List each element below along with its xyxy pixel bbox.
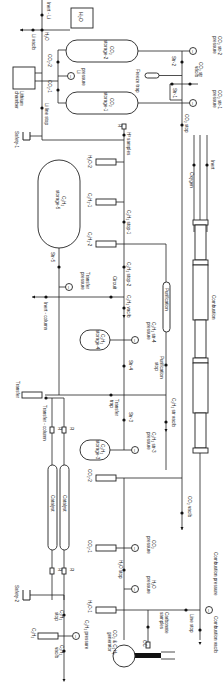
arrow-down-icon bbox=[123, 315, 126, 318]
svg-text:R: R bbox=[57, 568, 62, 572]
label-c2h2-2: C₂H₂-2 bbox=[87, 232, 92, 247]
svg-text:pressure: pressure bbox=[81, 68, 86, 86]
label-inert: Inert bbox=[210, 160, 215, 170]
svg-text:vac/b: vac/b bbox=[54, 647, 59, 658]
safety-2-valve bbox=[23, 590, 30, 600]
label-li-vac: Li vac/b bbox=[31, 34, 36, 50]
str-1-valve[interactable] bbox=[170, 82, 173, 85]
label-str-3: Str-3 bbox=[128, 412, 133, 422]
label-co2-storage-2: storage-2 bbox=[103, 40, 108, 60]
label-h-samples: H³ samples bbox=[126, 132, 131, 156]
svg-text:pressure: pressure bbox=[212, 36, 217, 54]
circuit-valve[interactable] bbox=[109, 295, 112, 298]
c2h2-str-vac-valve[interactable] bbox=[164, 420, 167, 423]
inert-column-valve[interactable] bbox=[44, 295, 47, 298]
freeze-trap bbox=[145, 73, 159, 78]
label-h2o-stop: H₂O stop bbox=[118, 560, 123, 579]
label-li-line-stop: Li line stop bbox=[44, 103, 49, 125]
arrow-left-icon bbox=[32, 296, 35, 299]
lithium-chamber bbox=[13, 67, 35, 89]
co2-str-1-pressure-gauge-icon bbox=[190, 100, 197, 107]
svg-text:R: R bbox=[69, 568, 74, 572]
co2-1-valve[interactable] bbox=[56, 88, 59, 91]
svg-text:R: R bbox=[57, 427, 62, 431]
svg-text:I: I bbox=[192, 50, 193, 54]
co2-str-vac-valve[interactable] bbox=[188, 82, 191, 85]
combustion-vac-valve[interactable] bbox=[198, 628, 201, 631]
co2-storage-2-tank bbox=[66, 40, 138, 62]
line-stop-valve[interactable] bbox=[184, 608, 187, 611]
li-vac-valve[interactable] bbox=[31, 28, 34, 31]
combustion-pressure-gauge-icon bbox=[206, 607, 213, 614]
h2o-2-trap bbox=[96, 159, 116, 165]
label-h2o-2: H₂O-2 bbox=[87, 155, 92, 168]
label-h2o-1: H₂O-1 bbox=[87, 600, 92, 613]
co2-2-valve[interactable] bbox=[56, 60, 59, 63]
co2-stop-valve[interactable] bbox=[180, 123, 183, 126]
label-combustion-pressure: Combustion pressure bbox=[213, 552, 218, 596]
label-oxygen: Oxygen bbox=[189, 172, 194, 188]
label-str-4: Str-4 bbox=[128, 360, 133, 370]
svg-text:I: I bbox=[134, 588, 135, 592]
oxygen-valve[interactable] bbox=[192, 163, 195, 166]
generator-stem bbox=[131, 653, 161, 658]
c2h2-stop-2-valve[interactable] bbox=[122, 265, 125, 268]
str-4-valve[interactable] bbox=[122, 364, 125, 367]
svg-text:R: R bbox=[117, 124, 122, 128]
label-combustion: Combustion bbox=[211, 295, 216, 320]
str-5-valve[interactable] bbox=[57, 265, 60, 268]
svg-text:C₂H₂: C₂H₂ bbox=[61, 196, 66, 206]
h2o-valve[interactable] bbox=[40, 28, 43, 31]
li-line-stop-valve[interactable] bbox=[40, 106, 43, 109]
svg-text:chamber: chamber bbox=[14, 91, 19, 109]
label-circuit: Circuit bbox=[112, 276, 117, 290]
svg-text:I: I bbox=[208, 609, 209, 613]
label-li-pressure: Li bbox=[76, 70, 81, 74]
carbonate-samples-valve[interactable] bbox=[146, 625, 149, 628]
svg-text:samples: samples bbox=[159, 612, 164, 630]
svg-text:I: I bbox=[192, 102, 193, 106]
label-co2-stop: CO₂ stop bbox=[184, 114, 189, 133]
inert-li-valve[interactable] bbox=[40, 13, 43, 16]
label-c2h2-storage-5: storage-5 bbox=[55, 190, 60, 210]
label-co2-2b: CO₂-2 bbox=[87, 469, 92, 482]
c2h2-stop-1-valve[interactable] bbox=[122, 220, 125, 223]
c2h2-str-4-pressure-gauge-icon bbox=[132, 337, 139, 344]
svg-text:pressure: pressure bbox=[146, 576, 151, 594]
label-line-stop: Line stop bbox=[189, 614, 194, 633]
label-h2o-box: H₂O bbox=[78, 12, 84, 22]
label-str-2: Str-2 bbox=[171, 56, 176, 66]
safety-1-valve bbox=[23, 132, 30, 140]
svg-text:pressure: pressure bbox=[146, 432, 151, 450]
label-freeze-trap: Freeze trap bbox=[135, 69, 140, 93]
label-str-1: Str-1 bbox=[172, 88, 177, 98]
inert-valve[interactable] bbox=[205, 163, 208, 166]
co2-vac-valve[interactable] bbox=[180, 511, 183, 514]
c2h2-pressure-gauge-icon bbox=[73, 633, 80, 640]
label-inert-column: Inert - column bbox=[43, 302, 48, 331]
label-c2h2-stop-2: C₂H₂ stop-2 bbox=[126, 262, 131, 287]
str-2-valve[interactable] bbox=[180, 60, 183, 63]
label-co2-1: CO₂-1 bbox=[47, 80, 52, 93]
label-combustion-vac: Combustion vac/b bbox=[213, 616, 218, 653]
c2h2-1-trap bbox=[96, 199, 116, 205]
transfer-trap-valve[interactable] bbox=[109, 393, 112, 396]
h-samples-valve[interactable] bbox=[122, 133, 125, 136]
label-inert-li: Inert - Li bbox=[46, 2, 51, 19]
svg-text:trap: trap bbox=[109, 400, 114, 408]
li-pressure-gauge-icon bbox=[68, 73, 75, 80]
co2-pressure-gauge-icon bbox=[132, 545, 139, 552]
svg-text:I: I bbox=[134, 449, 135, 453]
label-c2h2-vac: C₂H₂ vac/b bbox=[126, 295, 131, 318]
combustion-tube-inlet bbox=[195, 225, 206, 260]
label-oc: OC bbox=[142, 640, 147, 648]
svg-text:stop: stop bbox=[54, 612, 59, 621]
c2h2-vac-valve[interactable] bbox=[122, 306, 125, 309]
svg-text:pressure: pressure bbox=[146, 536, 151, 554]
svg-text:CO₂: CO₂ bbox=[109, 46, 114, 55]
label-c2h2: C₂H₂ bbox=[31, 628, 36, 638]
svg-text:CO₂: CO₂ bbox=[109, 98, 114, 107]
svg-text:I: I bbox=[70, 75, 71, 79]
svg-text:R: R bbox=[69, 427, 74, 431]
combustion-furnace-1 bbox=[193, 265, 208, 320]
